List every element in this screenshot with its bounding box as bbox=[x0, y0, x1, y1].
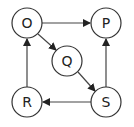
node-label: Q bbox=[61, 53, 72, 69]
node-label: O bbox=[21, 15, 32, 31]
node-label: R bbox=[22, 94, 32, 110]
node-label: P bbox=[102, 15, 110, 31]
edge-q-s bbox=[78, 72, 95, 91]
edge-o-q bbox=[38, 34, 56, 50]
node-p: P bbox=[91, 8, 121, 38]
node-q: Q bbox=[52, 46, 82, 76]
node-s: S bbox=[91, 87, 121, 117]
node-r: R bbox=[12, 87, 42, 117]
node-label: S bbox=[102, 94, 111, 110]
graph-canvas: O P Q R S bbox=[0, 0, 134, 127]
node-o: O bbox=[12, 8, 42, 38]
